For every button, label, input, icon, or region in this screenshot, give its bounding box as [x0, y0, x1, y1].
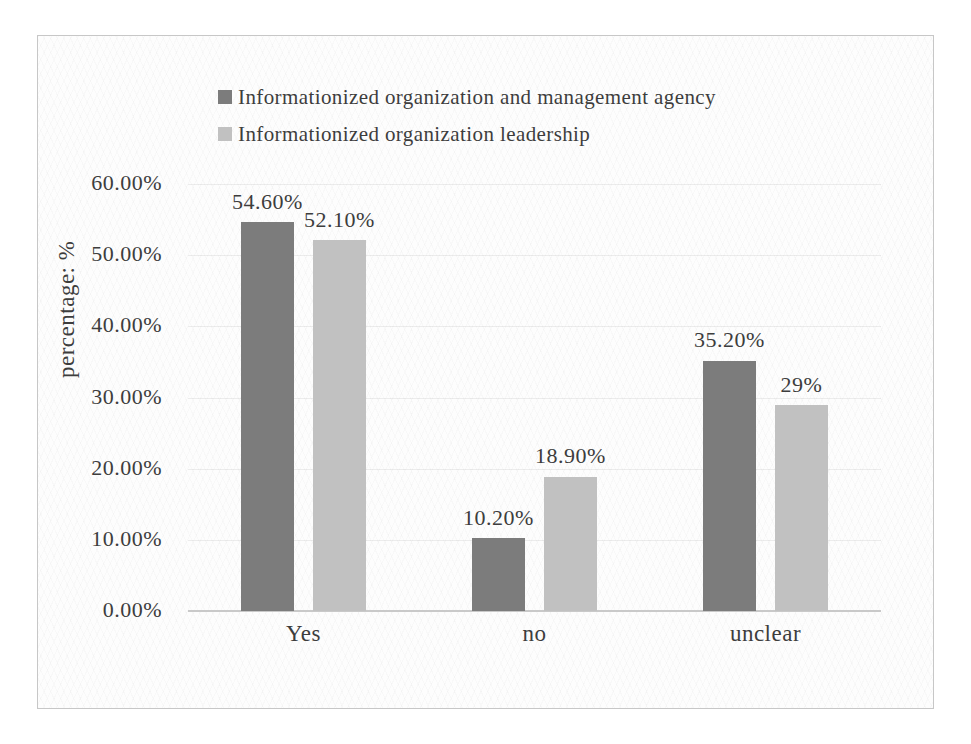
y-axis-tick-label: 40.00% — [38, 312, 162, 338]
gridline — [188, 184, 881, 185]
legend: Informationized organization and managem… — [218, 84, 716, 158]
bar-no-series1 — [472, 538, 525, 611]
plot-area: 54.60%52.10%10.20%18.90%35.20%29% — [188, 184, 881, 611]
y-axis-tick-label: 50.00% — [38, 241, 162, 267]
bar-value-label: 10.20% — [463, 505, 534, 531]
y-axis-tick-label: 0.00% — [38, 597, 162, 623]
legend-item: Informationized organization and managem… — [218, 84, 716, 110]
x-axis-label-yes: Yes — [286, 621, 321, 647]
bar-value-label: 29% — [781, 372, 823, 398]
x-axis-label-no: no — [523, 621, 547, 647]
legend-label: Informationized organization and managem… — [238, 85, 716, 110]
y-axis-tick-label: 30.00% — [38, 384, 162, 410]
bar-value-label: 35.20% — [694, 327, 765, 353]
bar-yes-series2 — [313, 240, 366, 611]
bar-value-label: 52.10% — [304, 207, 375, 233]
legend-item: Informationized organization leadership — [218, 121, 716, 147]
y-axis-tick-label: 60.00% — [38, 170, 162, 196]
y-axis-tick-label: 20.00% — [38, 455, 162, 481]
bar-value-label: 18.90% — [535, 443, 606, 469]
y-axis-tick-label: 10.00% — [38, 526, 162, 552]
bar-unclear-series1 — [703, 361, 756, 612]
legend-swatch-icon — [218, 127, 232, 141]
chart-frame: Informationized organization and managem… — [37, 35, 934, 709]
legend-swatch-icon — [218, 90, 232, 104]
bar-value-label: 54.60% — [232, 189, 303, 215]
legend-label: Informationized organization leadership — [238, 122, 590, 147]
bar-no-series2 — [544, 477, 597, 612]
bar-unclear-series2 — [775, 405, 828, 611]
bar-yes-series1 — [241, 222, 294, 611]
x-axis-label-unclear: unclear — [730, 621, 801, 647]
